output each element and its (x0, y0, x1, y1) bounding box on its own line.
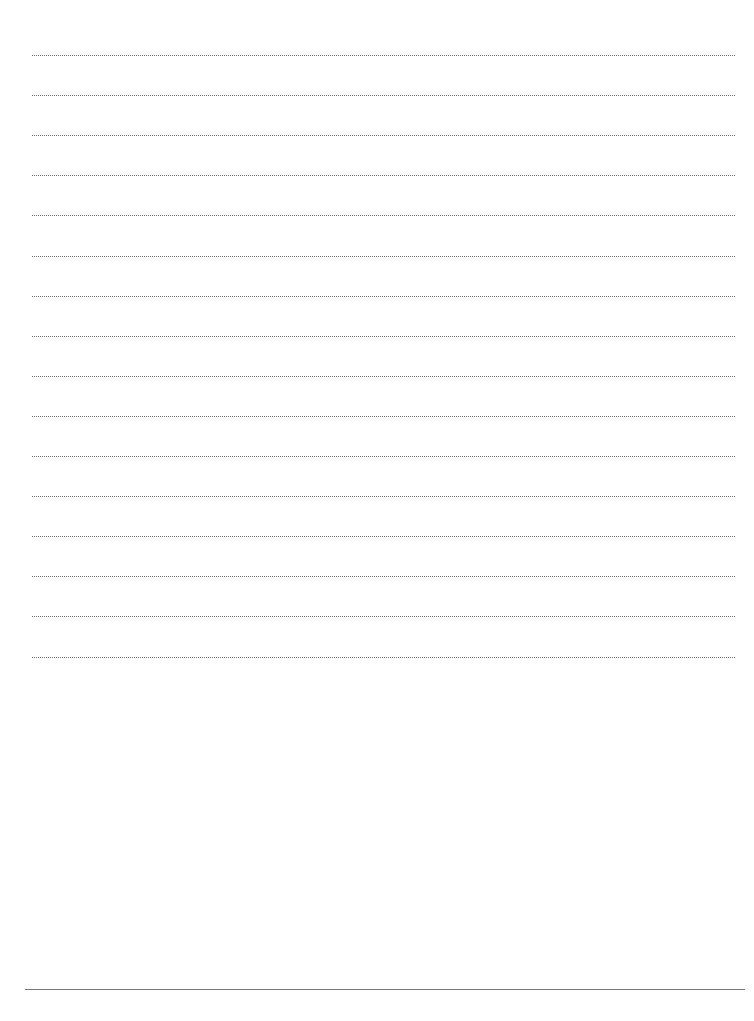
ruled-line (32, 657, 735, 658)
ruled-line (32, 135, 735, 136)
ruled-line (32, 336, 735, 337)
ruled-line (32, 616, 735, 617)
bottom-rule (25, 989, 745, 990)
ruled-line (32, 536, 735, 537)
ruled-line (32, 55, 735, 56)
ruled-line (32, 456, 735, 457)
ruled-line (32, 175, 735, 176)
ruled-line (32, 296, 735, 297)
ruled-line (32, 215, 735, 216)
lined-page (0, 0, 754, 1021)
ruled-line (32, 256, 735, 257)
ruled-line (32, 376, 735, 377)
ruled-line (32, 416, 735, 417)
ruled-line (32, 496, 735, 497)
ruled-line (32, 576, 735, 577)
ruled-line (32, 95, 735, 96)
